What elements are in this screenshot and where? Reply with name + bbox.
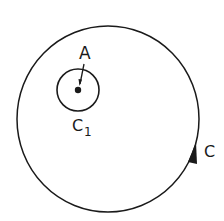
point-a-dot xyxy=(75,87,81,93)
direction-arrow-icon xyxy=(188,142,197,164)
pointer-arrowhead-icon xyxy=(79,79,83,86)
label-c1-subscript: 1 xyxy=(84,125,92,139)
label-c: C xyxy=(204,142,215,161)
outer-contour-c xyxy=(17,26,199,212)
label-a: A xyxy=(79,43,91,63)
contour-diagram: A C 1 C xyxy=(0,0,224,221)
label-c1: C xyxy=(72,116,83,135)
